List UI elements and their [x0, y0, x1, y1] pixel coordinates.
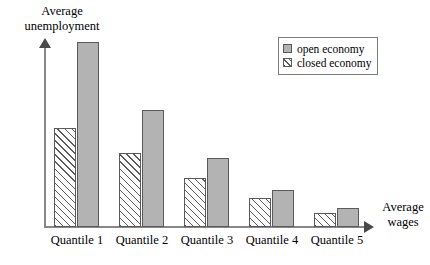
y-axis-title-line1: Average: [6, 4, 118, 19]
bar-open-economy: [77, 42, 99, 227]
bar-group: [52, 30, 102, 227]
bar-closed-economy: [184, 178, 206, 227]
legend-label-open-economy: open economy: [297, 43, 364, 55]
x-axis-tick-label: Quantile 5: [297, 232, 377, 249]
x-axis-tick-labels: Quantile 1Quantile 2Quantile 3Quantile 4…: [44, 232, 374, 252]
x-axis-title-line2: wages: [376, 215, 430, 230]
bar-open-economy: [272, 190, 294, 227]
bar-closed-economy: [314, 213, 336, 227]
legend-entry-open-economy: open economy: [283, 42, 373, 55]
bar-chart: Average unemployment Average wages Quant…: [0, 0, 430, 265]
legend: open economy closed economy: [278, 37, 378, 75]
bar-open-economy: [207, 158, 229, 227]
bar-closed-economy: [249, 198, 271, 227]
bar-closed-economy: [119, 153, 141, 227]
bar-open-economy: [142, 110, 164, 227]
bar-group: [182, 30, 232, 227]
hatched-swatch: [283, 58, 292, 67]
legend-label-closed-economy: closed economy: [297, 57, 371, 69]
legend-entry-closed-economy: closed economy: [283, 56, 373, 69]
x-axis-title: Average wages: [376, 200, 430, 230]
bar-open-economy: [337, 208, 359, 227]
bar-group: [117, 30, 167, 227]
x-axis-title-line1: Average: [376, 200, 430, 215]
solid-gray-swatch: [283, 44, 292, 53]
bar-closed-economy: [54, 128, 76, 227]
